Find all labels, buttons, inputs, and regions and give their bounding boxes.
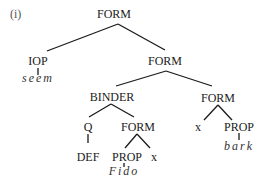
edge-form-binder — [116, 71, 166, 86]
node-binder-var: x — [151, 150, 157, 164]
node-binder-prop: PROP — [112, 150, 142, 164]
node-q: Q — [84, 120, 93, 134]
edge-binder-form — [111, 104, 134, 117]
example-number: (i) — [10, 7, 21, 21]
edge-root-iop — [47, 24, 118, 51]
edge-root-form — [118, 24, 165, 50]
leaf-def: DEF — [77, 150, 100, 164]
node-scope-prop: PROP — [224, 120, 254, 134]
syntax-tree-diagram: (i) FORM IOP seem FORM BINDER Q DEF FORM… — [0, 0, 269, 191]
node-form-right: FORM — [148, 54, 182, 68]
node-scope-form: FORM — [201, 91, 235, 105]
node-root-form: FORM — [97, 7, 131, 21]
edge-scope-x — [204, 105, 218, 120]
node-scope-var: x — [195, 120, 201, 134]
node-iop: IOP — [28, 54, 48, 68]
node-binder: BINDER — [90, 90, 135, 104]
leaf-seem: seem — [22, 71, 54, 85]
node-binder-form: FORM — [121, 120, 155, 134]
edge-form-form — [166, 71, 212, 86]
edge-scope-prop — [218, 105, 232, 120]
edge-binder-q — [89, 104, 111, 117]
leaf-fido: Fido — [108, 164, 140, 178]
edge-form-prop — [125, 134, 137, 148]
edge-form-x — [137, 134, 150, 148]
leaf-bark: bark — [224, 139, 254, 153]
